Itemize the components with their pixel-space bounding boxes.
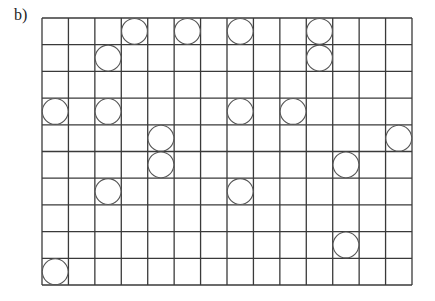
circle-marker bbox=[42, 99, 68, 125]
circle-marker bbox=[95, 179, 121, 205]
circle-marker bbox=[307, 45, 333, 71]
circle-marker bbox=[148, 125, 174, 151]
circle-marker bbox=[307, 18, 333, 44]
circle-marker bbox=[227, 99, 253, 125]
circle-marker bbox=[227, 18, 253, 44]
circle-marker bbox=[148, 152, 174, 178]
circle-marker bbox=[174, 18, 200, 44]
circle-grid-diagram bbox=[0, 0, 435, 301]
circle-marker bbox=[280, 99, 306, 125]
circle-marker bbox=[95, 45, 121, 71]
circle-marker bbox=[42, 259, 68, 285]
circle-marker bbox=[386, 125, 412, 151]
circle-marker bbox=[333, 152, 359, 178]
circle-marker bbox=[333, 232, 359, 258]
circle-marker bbox=[227, 179, 253, 205]
circle-marker bbox=[122, 18, 148, 44]
circle-marker bbox=[95, 99, 121, 125]
